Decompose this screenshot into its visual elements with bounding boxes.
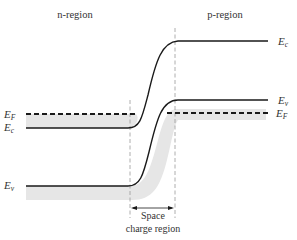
ev-left-label: Ev — [3, 179, 15, 193]
ef-right-label: EF — [275, 107, 288, 121]
ef-left-label: EF — [3, 108, 16, 122]
shade-n-electrons — [26, 114, 138, 128]
p-region-label: p-region — [207, 9, 243, 20]
space-charge-label-line2: charge region — [126, 223, 181, 234]
ec-left-label: Ec — [3, 121, 15, 135]
ec-right-label: Ec — [277, 35, 289, 49]
ev-right-label: Ev — [277, 94, 289, 108]
n-region-label: n-region — [57, 9, 93, 20]
band-diagram: n-region p-region EF Ec Ev Ec Ev EF Spac… — [0, 0, 297, 240]
space-charge-label-line1: Space — [141, 210, 165, 221]
